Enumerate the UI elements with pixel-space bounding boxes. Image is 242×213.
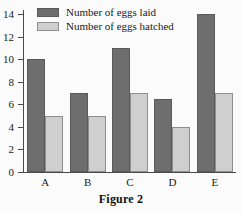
y-axis-tick-label: 2 — [0, 144, 14, 155]
bar-a-hatched — [45, 116, 63, 172]
bar-d-hatched — [172, 127, 190, 172]
y-axis-tick-label: 6 — [0, 99, 14, 110]
bar-d-laid — [154, 99, 172, 172]
figure-container: 02468101214 ABCDE Number of eggs laid Nu… — [0, 0, 242, 213]
y-axis-tick-label: 8 — [0, 77, 14, 88]
legend-label-laid: Number of eggs laid — [66, 7, 156, 18]
x-axis-label-e: E — [195, 176, 235, 188]
chart-legend: Number of eggs laid Number of eggs hatch… — [37, 7, 174, 35]
x-axis-label-d: D — [152, 176, 192, 188]
legend-swatch-icon-laid — [37, 8, 59, 17]
y-axis-tick-label: 10 — [0, 54, 14, 65]
bar-c-laid — [112, 48, 130, 172]
y-axis-tick — [18, 172, 24, 173]
bar-b-laid — [70, 93, 88, 172]
bar-b-hatched — [88, 116, 106, 172]
y-axis-tick-label: 14 — [0, 9, 14, 20]
x-axis-label-b: B — [68, 176, 108, 188]
legend-label-hatched: Number of eggs hatched — [66, 21, 174, 32]
legend-swatch-icon-hatched — [37, 22, 59, 31]
y-axis-tick-label: 4 — [0, 122, 14, 133]
x-axis-label-c: C — [110, 176, 150, 188]
x-axis-line — [23, 172, 236, 173]
y-axis-tick-label: 0 — [0, 167, 14, 178]
bar-a-laid — [27, 59, 45, 172]
x-axis-label-a: A — [25, 176, 65, 188]
bar-c-hatched — [130, 93, 148, 172]
bars-layer — [24, 14, 236, 172]
figure-caption: Figure 2 — [0, 192, 242, 207]
legend-item-laid: Number of eggs laid — [37, 7, 174, 18]
legend-item-hatched: Number of eggs hatched — [37, 21, 174, 32]
bar-e-hatched — [215, 93, 233, 172]
bar-e-laid — [197, 14, 215, 172]
y-axis-tick-label: 12 — [0, 32, 14, 43]
